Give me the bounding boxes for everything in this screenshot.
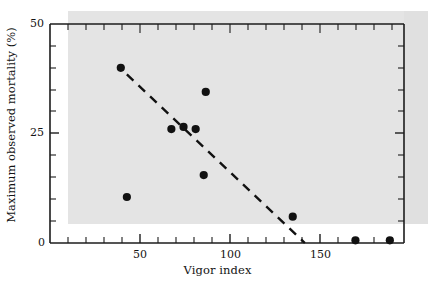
x-axis-ticks bbox=[68, 234, 392, 243]
x-tick-label-100: 100 bbox=[220, 248, 241, 261]
x-axis-title: Vigor index bbox=[0, 263, 435, 277]
data-point bbox=[351, 236, 359, 244]
data-point bbox=[200, 171, 208, 179]
y-axis-right-ticks bbox=[395, 46, 404, 221]
y-axis-ticks bbox=[50, 46, 59, 221]
scatter-plot-figure: 50 25 0 50 100 150 Vigor index Maximum o… bbox=[0, 0, 435, 286]
y-axis-title-wrapper: Maximum observed mortality (%) bbox=[0, 0, 22, 250]
y-tick-label-25: 25 bbox=[30, 126, 44, 139]
plot-canvas bbox=[0, 0, 435, 286]
trendline-dashed bbox=[127, 74, 305, 243]
x-tick-label-150: 150 bbox=[310, 248, 331, 261]
x-tick-label-50: 50 bbox=[133, 248, 147, 261]
data-point bbox=[202, 88, 210, 96]
data-point bbox=[289, 213, 297, 221]
data-point bbox=[123, 193, 131, 201]
y-tick-label-50: 50 bbox=[30, 17, 44, 30]
y-axis-title: Maximum observed mortality (%) bbox=[4, 27, 18, 222]
data-point bbox=[179, 123, 187, 131]
data-point bbox=[386, 236, 394, 244]
y-tick-label-0: 0 bbox=[38, 236, 45, 249]
data-points bbox=[117, 64, 394, 245]
x-axis-top-ticks bbox=[68, 24, 392, 33]
data-point bbox=[192, 125, 200, 133]
data-point bbox=[117, 64, 125, 72]
data-point bbox=[167, 125, 175, 133]
axis-frame bbox=[50, 24, 404, 243]
